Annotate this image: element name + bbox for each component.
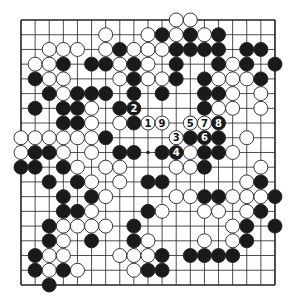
black-stone — [28, 72, 42, 86]
black-stone — [197, 160, 211, 174]
white-stone — [169, 190, 183, 204]
black-stone — [28, 263, 42, 277]
white-stone — [183, 13, 197, 27]
white-stone — [113, 160, 127, 174]
white-stone — [56, 145, 70, 159]
white-stone — [56, 87, 70, 101]
white-stone — [99, 219, 113, 233]
numbered-move-4: 4 — [169, 145, 183, 159]
white-stone — [183, 190, 197, 204]
black-stone — [56, 263, 70, 277]
white-stone — [85, 116, 99, 130]
black-stone — [85, 57, 99, 71]
black-stone — [197, 249, 211, 263]
black-stone — [127, 234, 141, 248]
white-stone — [141, 57, 155, 71]
white-stone — [85, 219, 99, 233]
white-stone — [226, 72, 240, 86]
white-stone — [113, 175, 127, 189]
black-stone — [141, 175, 155, 189]
white-stone — [42, 249, 56, 263]
black-stone — [254, 42, 268, 56]
black-stone — [113, 42, 127, 56]
white-stone — [254, 101, 268, 115]
move-number-label: 3 — [173, 132, 180, 143]
white-stone — [70, 160, 84, 174]
white-stone — [85, 204, 99, 218]
black-stone — [197, 145, 211, 159]
black-stone — [212, 249, 226, 263]
black-stone — [99, 131, 113, 145]
black-stone — [155, 249, 169, 263]
black-stone — [28, 249, 42, 263]
white-stone — [141, 234, 155, 248]
black-stone — [141, 263, 155, 277]
black-stone — [99, 57, 113, 71]
black-stone — [127, 87, 141, 101]
numbered-move-5: 5 — [183, 116, 197, 130]
white-stone — [197, 28, 211, 42]
black-stone — [70, 87, 84, 101]
black-stone — [169, 42, 183, 56]
black-stone — [56, 204, 70, 218]
black-stone — [42, 175, 56, 189]
white-stone — [113, 116, 127, 130]
black-stone — [212, 145, 226, 159]
black-stone — [141, 204, 155, 218]
white-stone — [169, 160, 183, 174]
black-stone — [155, 175, 169, 189]
white-stone — [99, 190, 113, 204]
black-stone — [212, 190, 226, 204]
black-stone — [56, 57, 70, 71]
white-stone — [240, 131, 254, 145]
black-stone — [70, 204, 84, 218]
white-stone — [113, 249, 127, 263]
white-stone — [240, 204, 254, 218]
black-stone — [226, 249, 240, 263]
black-stone — [169, 72, 183, 86]
white-stone — [42, 42, 56, 56]
black-stone — [240, 219, 254, 233]
black-stone — [42, 87, 56, 101]
white-stone — [127, 42, 141, 56]
numbered-move-3: 3 — [169, 131, 183, 145]
black-stone — [197, 42, 211, 56]
white-stone — [113, 57, 127, 71]
numbered-move-7: 7 — [197, 116, 211, 130]
black-stone — [254, 72, 268, 86]
black-stone — [42, 278, 56, 292]
black-stone — [254, 204, 268, 218]
white-stone — [99, 160, 113, 174]
white-stone — [183, 145, 197, 159]
black-stone — [70, 101, 84, 115]
black-stone — [169, 57, 183, 71]
white-stone — [226, 57, 240, 71]
white-stone — [113, 72, 127, 86]
white-stone — [141, 42, 155, 56]
white-stone — [155, 42, 169, 56]
black-stone — [56, 190, 70, 204]
white-stone — [155, 204, 169, 218]
black-stone — [113, 101, 127, 115]
black-stone — [28, 145, 42, 159]
white-stone — [85, 175, 99, 189]
white-stone — [226, 190, 240, 204]
black-stone — [70, 175, 84, 189]
white-stone — [56, 131, 70, 145]
star-point — [146, 151, 150, 155]
black-stone — [183, 28, 197, 42]
black-stone — [183, 42, 197, 56]
white-stone — [169, 13, 183, 27]
white-stone — [212, 204, 226, 218]
white-stone — [183, 160, 197, 174]
white-stone — [240, 72, 254, 86]
move-number-label: 2 — [130, 103, 137, 114]
white-stone — [42, 131, 56, 145]
black-stone — [113, 145, 127, 159]
numbered-move-6: 6 — [197, 131, 211, 145]
white-stone — [212, 101, 226, 115]
white-stone — [85, 145, 99, 159]
white-stone — [99, 28, 113, 42]
black-stone — [42, 234, 56, 248]
white-stone — [226, 234, 240, 248]
